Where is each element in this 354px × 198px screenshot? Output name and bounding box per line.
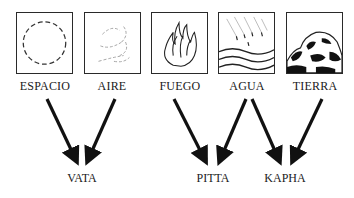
arrow-espacio-vata: [47, 99, 76, 160]
connection-arrows: [0, 0, 354, 198]
arrow-agua-pitta: [220, 99, 246, 160]
arrow-agua-kapha: [252, 99, 279, 160]
kapha-label: KAPHA: [255, 171, 315, 186]
pitta-label: PITTA: [183, 171, 243, 186]
vata-label: VATA: [52, 171, 112, 186]
arrow-tierra-kapha: [293, 99, 322, 160]
arrow-aire-vata: [88, 99, 115, 160]
arrow-fuego-pitta: [174, 99, 205, 160]
